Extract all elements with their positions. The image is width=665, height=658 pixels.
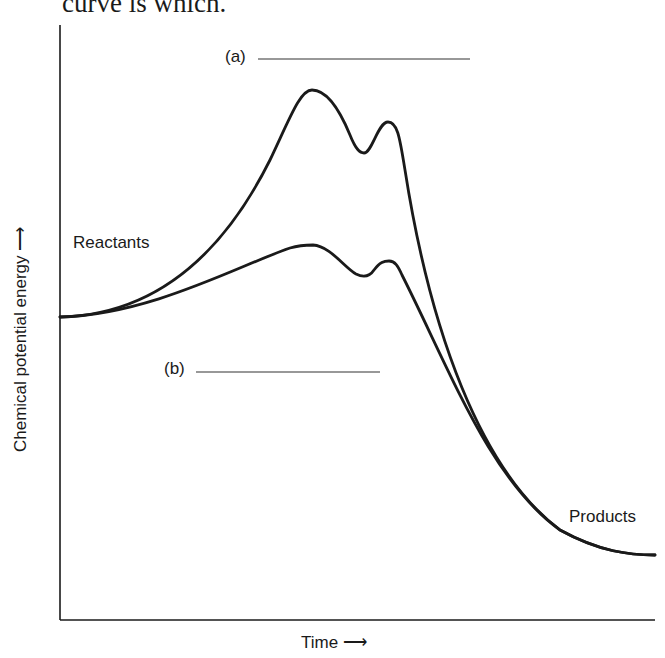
x-axis-label-text: Time	[301, 633, 338, 652]
curve-b-label: (b)	[164, 359, 185, 379]
x-axis-label: Time ⟶	[301, 632, 367, 653]
energy-diagram	[0, 0, 665, 658]
reactants-label: Reactants	[73, 233, 150, 253]
curve-a	[60, 90, 655, 555]
curve-b	[60, 245, 655, 555]
x-axis-arrow-icon: ⟶	[343, 633, 367, 652]
curve-a-label: (a)	[225, 47, 246, 67]
products-label: Products	[569, 507, 636, 527]
y-axis-label-text: Chemical potential energy	[11, 255, 30, 452]
y-axis-arrow-icon: ⟶	[11, 227, 30, 251]
y-axis-label: Chemical potential energy ⟶	[10, 227, 31, 452]
